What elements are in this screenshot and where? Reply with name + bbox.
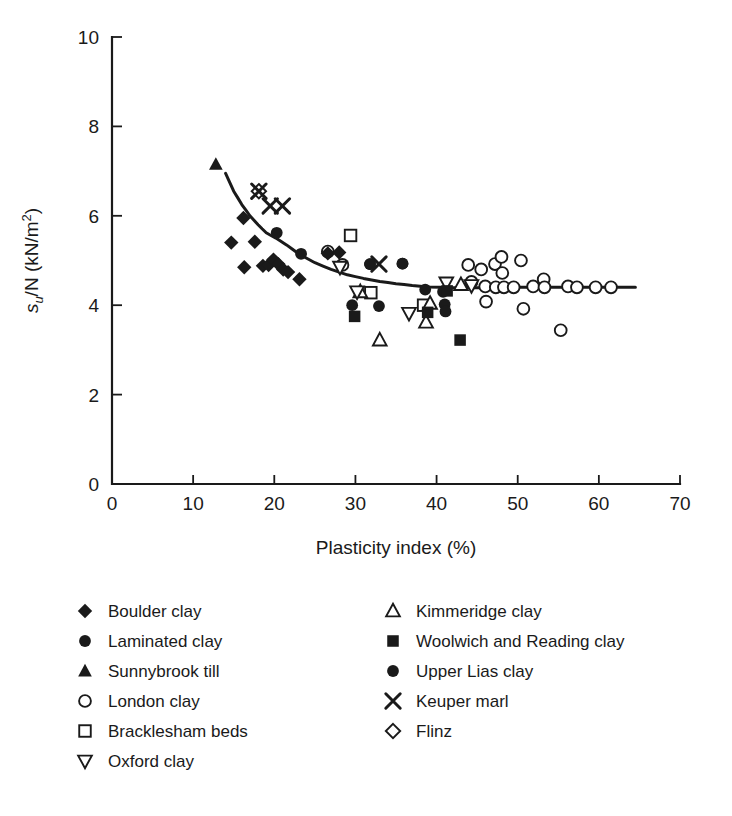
- filled-circle-icon: [72, 628, 98, 654]
- data-point: [292, 272, 306, 286]
- legend-item: Kimmeridge clay: [380, 596, 625, 626]
- legend-marker-filled-square: [382, 630, 404, 652]
- legend-marker-open-square: [74, 720, 96, 742]
- marker-filled-circle: [364, 258, 376, 270]
- legend-marker-open-triangle-up: [382, 600, 404, 622]
- data-point: [605, 281, 617, 293]
- legend-item: Oxford clay: [72, 746, 248, 776]
- marker-filled-circle: [373, 300, 385, 312]
- marker-filled-diamond: [224, 235, 238, 249]
- open-triangle-up-icon: [380, 598, 406, 624]
- legend-marker-open-circle: [74, 690, 96, 712]
- y-tick-label: 2: [88, 385, 99, 406]
- open-diamond-icon: [380, 718, 406, 744]
- data-point: [224, 235, 238, 249]
- x-tick-label: 60: [588, 493, 609, 514]
- data-point: [373, 333, 387, 346]
- x-tick-label: 70: [669, 493, 690, 514]
- legend-item: Bracklesham beds: [72, 716, 248, 746]
- marker-open-triangle-down: [402, 308, 416, 321]
- legend-marker-filled-circle: [382, 660, 404, 682]
- filled-circle-icon: [380, 658, 406, 684]
- y-tick-label: 4: [88, 295, 99, 316]
- marker-filled-square: [441, 285, 453, 297]
- data-point: [346, 299, 358, 311]
- marker-filled-diamond: [237, 260, 251, 274]
- data-point: [590, 281, 602, 293]
- legend-item-label: Oxford clay: [98, 753, 194, 770]
- legend-marker-shape: [386, 604, 400, 617]
- marker-filled-square: [422, 307, 434, 319]
- marker-open-circle: [527, 281, 539, 293]
- marker-filled-diamond: [248, 235, 262, 249]
- legend-marker-filled-circle: [74, 630, 96, 652]
- legend-item: London clay: [72, 686, 248, 716]
- scatter-plot: 0102030405060700246810Plasticity index (…: [0, 0, 732, 600]
- marker-filled-circle: [346, 299, 358, 311]
- marker-open-diamond: [386, 724, 400, 738]
- legend-item-label: Upper Lias clay: [406, 663, 533, 680]
- marker-open-circle: [571, 281, 583, 293]
- data-point: [517, 303, 529, 315]
- data-point: [248, 235, 262, 249]
- marker-filled-square: [387, 635, 399, 647]
- legend-item-label: Bracklesham beds: [98, 723, 248, 740]
- legend-marker-shape: [79, 635, 91, 647]
- marker-filled-diamond: [78, 604, 92, 618]
- marker-x-cross: [386, 694, 400, 708]
- filled-square-icon: [380, 628, 406, 654]
- data-point: [237, 260, 251, 274]
- data-point: [480, 296, 492, 308]
- legend-item: Flinz: [380, 716, 625, 746]
- data-point: [555, 324, 567, 336]
- data-point: [527, 281, 539, 293]
- data-point: [332, 245, 346, 259]
- data-point: [462, 259, 474, 271]
- y-tick-label: 8: [88, 116, 99, 137]
- marker-filled-circle: [387, 665, 399, 677]
- marker-open-triangle-up: [386, 604, 400, 617]
- marker-open-circle: [508, 281, 520, 293]
- open-triangle-down-icon: [72, 748, 98, 774]
- figure-container: 0102030405060700246810Plasticity index (…: [0, 0, 732, 816]
- y-axis-title: su/N (kN/m2): [19, 208, 46, 313]
- legend-item: Upper Lias clay: [380, 656, 625, 686]
- marker-open-triangle-down: [78, 756, 92, 769]
- data-point: [209, 157, 223, 170]
- marker-open-circle: [517, 303, 529, 315]
- data-point: [345, 230, 357, 242]
- legend-marker-open-triangle-down: [74, 750, 96, 772]
- y-tick-label: 0: [88, 474, 99, 495]
- legend-item: Sunnybrook till: [72, 656, 248, 686]
- y-tick-label: 6: [88, 206, 99, 227]
- marker-open-circle: [475, 264, 487, 276]
- data-point: [373, 300, 385, 312]
- x-tick-label: 0: [107, 493, 118, 514]
- marker-open-circle: [515, 255, 527, 267]
- data-point: [441, 285, 453, 297]
- marker-filled-circle: [440, 306, 452, 318]
- marker-open-circle: [79, 695, 91, 707]
- marker-open-circle: [480, 296, 492, 308]
- filled-diamond-icon: [72, 598, 98, 624]
- open-square-icon: [72, 718, 98, 744]
- open-circle-icon: [72, 688, 98, 714]
- legend-item-label: London clay: [98, 693, 200, 710]
- marker-filled-diamond: [332, 245, 346, 259]
- data-point: [419, 284, 431, 296]
- chart-legend: Boulder clayLaminated claySunnybrook til…: [72, 596, 712, 786]
- marker-filled-circle: [79, 635, 91, 647]
- legend-marker-filled-diamond: [74, 600, 96, 622]
- legend-marker-x-cross: [382, 690, 404, 712]
- marker-filled-square: [454, 334, 466, 346]
- data-point: [349, 311, 361, 323]
- data-point: [295, 248, 307, 260]
- data-point: [454, 334, 466, 346]
- legend-item: Woolwich and Reading clay: [380, 626, 625, 656]
- marker-filled-diamond: [292, 272, 306, 286]
- x-cross-icon: [380, 688, 406, 714]
- x-tick-label: 50: [507, 493, 528, 514]
- data-point: [422, 307, 434, 319]
- data-point: [364, 258, 376, 270]
- marker-filled-triangle-up: [209, 157, 223, 170]
